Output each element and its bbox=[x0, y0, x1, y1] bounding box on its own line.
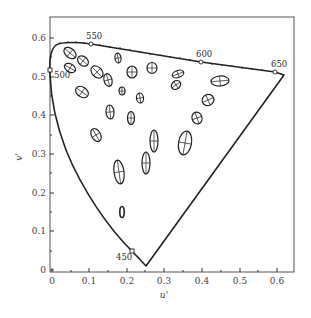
ellipse bbox=[119, 87, 125, 95]
wavelength-markers bbox=[48, 42, 277, 253]
ellipse bbox=[128, 112, 135, 125]
ellipse bbox=[147, 63, 157, 74]
ellipse bbox=[170, 79, 183, 91]
x-tick-label: 0 bbox=[49, 276, 55, 286]
ellipse bbox=[171, 69, 185, 80]
ellipse bbox=[120, 207, 124, 218]
x-tick-label: 0.4 bbox=[195, 276, 210, 286]
y-tick-label: 0.6 bbox=[32, 33, 47, 43]
ellipse bbox=[89, 64, 106, 81]
ellipse bbox=[200, 92, 216, 107]
ellipse bbox=[211, 75, 230, 87]
x-tick-label: 0.3 bbox=[157, 276, 172, 286]
y-tick-label: 0.3 bbox=[32, 149, 47, 159]
x-axis-title: u' bbox=[160, 290, 168, 300]
ellipse bbox=[73, 84, 90, 100]
ellipse bbox=[112, 159, 125, 184]
wavelength-label-450: 450 bbox=[116, 252, 132, 262]
wavelength-label-600: 600 bbox=[196, 49, 212, 59]
ellipse bbox=[114, 53, 122, 64]
y-tick-label: 0.4 bbox=[32, 110, 47, 120]
ellipse bbox=[102, 73, 113, 88]
x-tick-labels: 0 0.1 0.2 0.3 0.4 0.5 0.6 bbox=[49, 276, 284, 286]
ellipse bbox=[62, 45, 79, 61]
x-tick-label: 0.2 bbox=[120, 276, 134, 286]
y-axis-title: v' bbox=[14, 153, 24, 161]
ellipse bbox=[89, 127, 104, 144]
x-tick-label: 0.5 bbox=[233, 276, 248, 286]
chromaticity-chart: 0 0.1 0.2 0.3 0.4 0.5 0.6 u' 0 0.1 0.2 0… bbox=[0, 0, 311, 318]
y-tick-label: 0 bbox=[40, 265, 46, 275]
ellipse bbox=[76, 54, 91, 69]
ellipse bbox=[105, 105, 114, 120]
plot-frame bbox=[50, 17, 294, 272]
ellipse bbox=[127, 66, 137, 78]
ellipse bbox=[150, 130, 158, 152]
y-tick-label: 0.1 bbox=[32, 226, 46, 236]
x-axis bbox=[52, 268, 277, 272]
wavelength-label-550: 550 bbox=[86, 31, 102, 41]
y-tick-label: 0.5 bbox=[32, 72, 47, 82]
y-tick-labels: 0 0.1 0.2 0.3 0.4 0.5 0.6 bbox=[32, 33, 47, 275]
ellipse bbox=[177, 130, 194, 156]
ellipse bbox=[136, 92, 145, 103]
ellipse bbox=[142, 152, 150, 174]
y-tick-label: 0.2 bbox=[32, 188, 46, 198]
x-tick-label: 0.1 bbox=[82, 276, 96, 286]
spectral-locus bbox=[50, 43, 284, 266]
wavelength-label-650: 650 bbox=[271, 59, 287, 69]
ellipse bbox=[190, 111, 204, 126]
x-tick-label: 0.6 bbox=[270, 276, 285, 286]
